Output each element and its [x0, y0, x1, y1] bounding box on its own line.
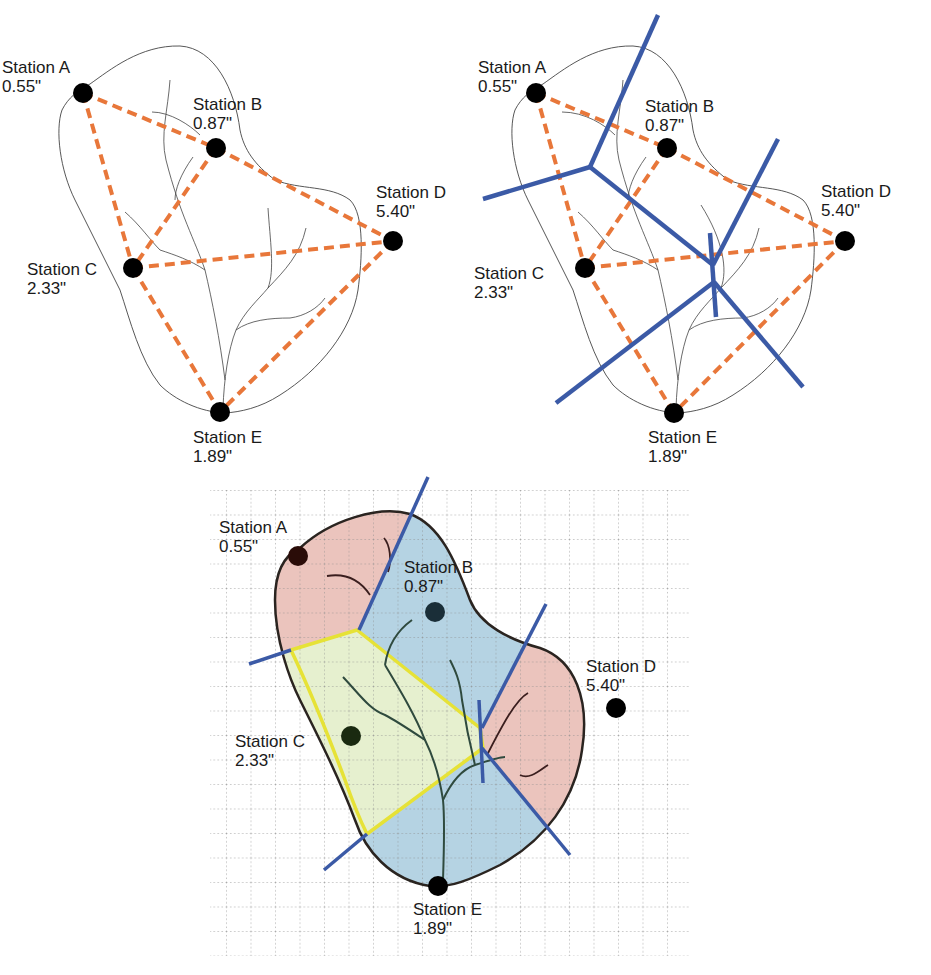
- station-c-dot: [123, 258, 143, 278]
- station-value: 0.55": [2, 77, 70, 96]
- station-d-dot: [835, 231, 855, 251]
- station-name: Station E: [648, 428, 717, 447]
- station-value: 0.55": [478, 77, 546, 96]
- station-value: 5.40": [586, 676, 656, 695]
- station-value: 2.33": [27, 279, 97, 298]
- station-label-c: Station C 2.33": [27, 260, 97, 298]
- station-a-dot: [73, 83, 93, 103]
- station-value: 0.55": [219, 537, 287, 556]
- station-label-e: Station E 1.89": [413, 900, 482, 938]
- station-label-b: Station B 0.87": [404, 558, 473, 596]
- station-name: Station A: [219, 518, 287, 537]
- station-name: Station C: [235, 732, 305, 751]
- station-name: Station A: [2, 58, 70, 77]
- station-name: Station C: [27, 260, 97, 279]
- station-c-dot: [575, 258, 595, 278]
- station-value: 5.40": [821, 201, 891, 220]
- station-label-d: Station D 5.40": [821, 182, 891, 220]
- station-label-a: Station A 0.55": [2, 58, 70, 96]
- station-value: 0.87": [404, 577, 473, 596]
- station-value: 2.33": [474, 283, 544, 302]
- station-markers: [73, 83, 403, 422]
- station-value: 1.89": [193, 447, 262, 466]
- station-value: 0.87": [645, 116, 714, 135]
- station-e-dot: [428, 876, 448, 896]
- station-b-dot: [206, 138, 226, 158]
- station-label-d: Station D 5.40": [376, 183, 446, 221]
- station-value: 2.33": [235, 751, 305, 770]
- station-a-dot: [288, 546, 308, 566]
- station-label-a: Station A 0.55": [219, 518, 287, 556]
- triangulation-lines: [536, 93, 845, 413]
- station-value: 5.40": [376, 202, 446, 221]
- station-label-a: Station A 0.55": [478, 58, 546, 96]
- station-label-d: Station D 5.40": [586, 657, 656, 695]
- station-d-dot: [383, 231, 403, 251]
- station-name: Station B: [645, 97, 714, 116]
- station-label-c: Station C 2.33": [474, 264, 544, 302]
- station-e-dot: [210, 402, 230, 422]
- station-label-b: Station B 0.87": [645, 97, 714, 135]
- station-value: 0.87": [193, 114, 262, 133]
- station-name: Station E: [413, 900, 482, 919]
- station-name: Station C: [474, 264, 544, 283]
- station-value: 1.89": [648, 447, 717, 466]
- station-c-dot: [341, 726, 361, 746]
- station-name: Station B: [404, 558, 473, 577]
- station-b-dot: [425, 602, 445, 622]
- station-label-e: Station E 1.89": [193, 428, 262, 466]
- station-name: Station D: [821, 182, 891, 201]
- station-label-c: Station C 2.33": [235, 732, 305, 770]
- thiessen-polygon-diagram: [0, 0, 931, 975]
- station-label-b: Station B 0.87": [193, 95, 262, 133]
- station-name: Station B: [193, 95, 262, 114]
- station-name: Station E: [193, 428, 262, 447]
- station-name: Station D: [376, 183, 446, 202]
- triangulation-lines: [83, 93, 393, 412]
- station-value: 1.89": [413, 919, 482, 938]
- station-e-dot: [664, 403, 684, 423]
- station-name: Station D: [586, 657, 656, 676]
- station-b-dot: [657, 138, 677, 158]
- station-name: Station A: [478, 58, 546, 77]
- station-d-dot: [606, 698, 626, 718]
- station-label-e: Station E 1.89": [648, 428, 717, 466]
